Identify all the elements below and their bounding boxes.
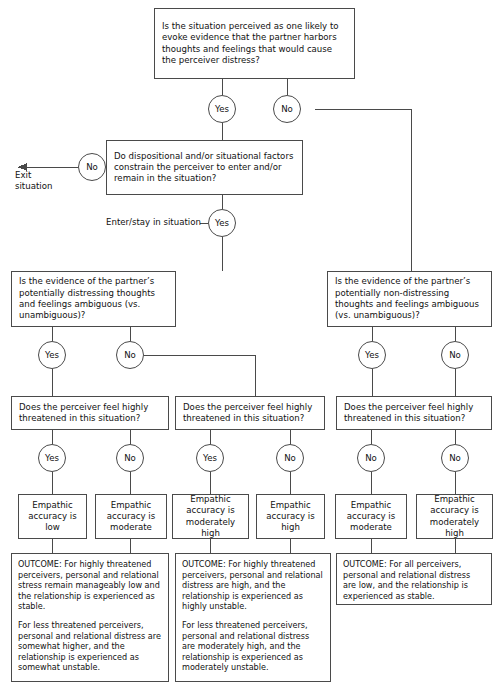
outcome-left-paragraph-2: For less threatened perceivers, personal… [18,620,162,673]
question-box-ambiguous-nondistressing: Is the evidence of the partner’s potenti… [327,271,492,327]
question-threatened-2-text: Does the perceiver feel highly threatene… [183,402,317,425]
branch-constrain-no: No [78,153,106,181]
branch-ambiguous-left-no-label: No [124,351,136,360]
accuracy-box-2: Empathic accuracy is moderate [95,494,167,539]
question-constrain-text: Do dispositional and/or situational fact… [114,151,295,185]
accuracy-box-6-text: Empathic accuracy is moderately high [424,494,485,539]
branch-constrain-yes-label: Yes [215,219,229,228]
question-box-threatened-3: Does the perceiver feel highly threatene… [336,396,492,430]
outcome-box-left: OUTCOME: For highly threatened perceiver… [11,553,169,682]
branch-threatened-3-left: No [357,444,385,472]
accuracy-box-6: Empathic accuracy is moderately high [416,494,493,539]
branch-threatened-1-no: No [116,444,144,472]
branch-constrain-yes: Yes [208,209,236,237]
branch-threatened-1-no-label: No [124,454,136,463]
question-box-constrain: Do dispositional and/or situational fact… [106,140,303,195]
question-box-ambiguous-distressing: Is the evidence of the partner’s potenti… [11,271,176,327]
outcome-middle-paragraph-1: OUTCOME: For highly threatened perceiver… [182,559,324,612]
branch-ambiguous-left-yes: Yes [38,341,66,369]
branch-ambiguous-right-no-label: No [449,351,461,360]
exit-situation-label: Exit situation [15,170,59,192]
branch-threatened-2-yes: Yes [196,444,224,472]
accuracy-box-3: Empathic accuracy is moderately high [172,494,249,539]
outcome-left-paragraph-1: OUTCOME: For highly threatened perceiver… [18,559,162,612]
question-threatened-3-text: Does the perceiver feel highly threatene… [344,402,484,425]
branch-ambiguous-left-no: No [116,341,144,369]
question-ambiguous-nondistressing-text: Is the evidence of the partner’s potenti… [335,276,484,321]
question-box-root: Is the situation perceived as one likely… [154,8,355,79]
branch-ambiguous-right-yes: Yes [358,341,386,369]
branch-threatened-2-no: No [276,444,304,472]
enter-stay-label: Enter/stay in situation [106,217,201,228]
branch-root-yes: Yes [208,95,236,123]
accuracy-box-4: Empathic accuracy is high [256,494,325,539]
flowchart-page: Is the situation perceived as one likely… [0,0,503,700]
branch-threatened-2-no-label: No [284,454,296,463]
accuracy-box-4-text: Empathic accuracy is high [264,500,317,534]
question-box-threatened-1: Does the perceiver feel highly threatene… [11,396,169,430]
outcome-box-right: OUTCOME: For all perceivers, personal an… [336,553,492,605]
branch-threatened-2-yes-label: Yes [203,454,217,463]
accuracy-box-1: Empathic accuracy is low [18,494,87,539]
outcome-middle-paragraph-2: For less threatened perceivers, personal… [182,620,324,673]
branch-threatened-1-yes-label: Yes [45,454,59,463]
question-box-threatened-2: Does the perceiver feel highly threatene… [175,396,325,430]
branch-threatened-3-right: No [441,444,469,472]
branch-threatened-1-yes: Yes [38,444,66,472]
branch-threatened-3-right-label: No [449,454,461,463]
question-threatened-1-text: Does the perceiver feel highly threatene… [19,402,161,425]
accuracy-box-3-text: Empathic accuracy is moderately high [180,494,241,539]
exit-situation-text: Exit situation [15,170,52,191]
branch-threatened-3-left-label: No [365,454,377,463]
accuracy-box-5-text: Empathic accuracy is moderate [343,500,399,534]
branch-root-yes-label: Yes [215,105,229,114]
branch-ambiguous-right-no: No [441,341,469,369]
branch-root-no: No [273,95,301,123]
accuracy-box-2-text: Empathic accuracy is moderate [103,500,159,534]
question-root-text: Is the situation perceived as one likely… [162,21,347,66]
outcome-box-middle: OUTCOME: For highly threatened perceiver… [175,553,331,682]
accuracy-box-5: Empathic accuracy is moderate [335,494,407,539]
branch-ambiguous-right-yes-label: Yes [365,351,379,360]
branch-root-no-label: No [281,105,293,114]
branch-constrain-no-label: No [86,163,98,172]
enter-stay-text: Enter/stay in situation [106,217,201,227]
outcome-right-paragraph-1: OUTCOME: For all perceivers, personal an… [343,559,485,601]
branch-ambiguous-left-yes-label: Yes [45,351,59,360]
question-ambiguous-distressing-text: Is the evidence of the partner’s potenti… [19,276,168,321]
accuracy-box-1-text: Empathic accuracy is low [26,500,79,534]
